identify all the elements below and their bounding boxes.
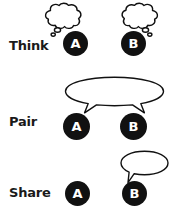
person-label-pair-b: B xyxy=(129,120,139,133)
person-label-think-a: A xyxy=(70,37,80,50)
person-circle-share-a: A xyxy=(65,181,90,206)
row-label-pair: Pair xyxy=(9,114,37,129)
person-label-share-a: A xyxy=(72,187,82,200)
row-label-share: Share xyxy=(9,185,51,200)
person-circle-pair-a: A xyxy=(63,113,90,140)
person-circle-share-b: B xyxy=(122,181,147,206)
person-circle-think-a: A xyxy=(63,31,88,56)
think-pair-share-diagram: Think A B Pair A B Share A B xyxy=(0,0,177,211)
speech-bubble-icon-share-b xyxy=(118,150,170,184)
person-circle-pair-b: B xyxy=(120,113,147,140)
row-label-think: Think xyxy=(9,38,48,53)
person-label-share-b: B xyxy=(130,187,140,200)
person-label-pair-a: A xyxy=(71,120,81,133)
person-label-think-b: B xyxy=(129,37,139,50)
person-circle-think-b: B xyxy=(121,31,146,56)
shared-speech-bubble-icon-pair xyxy=(62,76,167,116)
